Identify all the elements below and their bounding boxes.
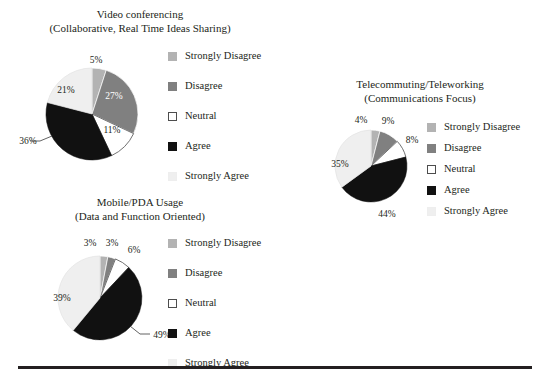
swatch-neutral-icon — [427, 165, 436, 174]
legend-item-strongly-disagree: Strongly Disagree — [168, 50, 261, 62]
legend-item-agree: Agree — [427, 184, 520, 196]
pie-mobile-pda-usage: 3% 3% 6% 49% 39% — [24, 232, 184, 362]
swatch-strongly-disagree-icon — [427, 123, 436, 132]
pie-value-strongly-disagree: 5% — [90, 55, 103, 65]
legend-item-strongly-disagree: Strongly Disagree — [427, 121, 520, 133]
pie-value-neutral: 6% — [128, 245, 141, 255]
legend-item-disagree: Disagree — [168, 80, 261, 92]
pie-value-strongly-disagree: 4% — [355, 115, 368, 125]
swatch-strongly-agree-icon — [168, 172, 177, 181]
swatch-strongly-disagree-icon — [168, 239, 177, 248]
pie-video-conferencing: 5% 27% 11% 36% 21% — [8, 48, 168, 178]
legend-telecommuting-teleworking: Strongly Disagree Disagree Neutral Agree… — [427, 121, 520, 217]
swatch-agree-icon — [427, 186, 436, 195]
legend-item-neutral: Neutral — [168, 110, 261, 122]
legend-label-strongly-disagree: Strongly Disagree — [444, 121, 520, 133]
legend-label-strongly-disagree: Strongly Disagree — [185, 50, 261, 62]
chart-title-line-2: (Communications Focus) — [330, 92, 510, 106]
legend-label-agree: Agree — [185, 327, 211, 339]
chart-title-telecommuting-teleworking: Telecommuting/Teleworking (Communication… — [330, 78, 510, 105]
legend-item-agree: Agree — [168, 327, 261, 339]
legend-label-strongly-agree: Strongly Agree — [185, 170, 249, 182]
legend-item-strongly-disagree: Strongly Disagree — [168, 237, 261, 249]
legend-label-strongly-disagree: Strongly Disagree — [185, 237, 261, 249]
chart-title-video-conferencing: Video conferencing (Collaborative, Real … — [10, 8, 270, 35]
legend-label-neutral: Neutral — [185, 297, 217, 309]
pie-value-strongly-agree: 21% — [57, 85, 75, 95]
legend-label-agree: Agree — [444, 184, 470, 196]
chart-title-mobile-pda-usage: Mobile/PDA Usage (Data and Function Orie… — [10, 196, 270, 223]
legend-item-disagree: Disagree — [427, 142, 520, 154]
chart-title-line-2: (Collaborative, Real Time Ideas Sharing) — [10, 22, 270, 36]
swatch-disagree-icon — [168, 82, 177, 91]
pie-value-disagree: 27% — [105, 91, 123, 101]
pie-value-neutral: 11% — [103, 125, 120, 135]
chart-title-line-2: (Data and Function Oriented) — [10, 210, 270, 224]
chart-panel-telecommuting-teleworking: Telecommuting/Teleworking (Communication… — [326, 78, 546, 228]
chart-panel-video-conferencing: Video conferencing (Collaborative, Real … — [0, 0, 300, 190]
legend-item-neutral: Neutral — [427, 163, 520, 175]
legend-label-disagree: Disagree — [185, 80, 222, 92]
chart-title-line-1: Mobile/PDA Usage — [10, 196, 270, 210]
legend-item-strongly-agree: Strongly Agree — [168, 170, 261, 182]
swatch-agree-icon — [168, 329, 177, 338]
swatch-agree-icon — [168, 142, 177, 151]
swatch-neutral-icon — [168, 112, 177, 121]
pie-value-agree: 36% — [19, 136, 37, 146]
legend-item-neutral: Neutral — [168, 297, 261, 309]
swatch-disagree-icon — [168, 269, 177, 278]
chart-title-line-1: Telecommuting/Teleworking — [330, 78, 510, 92]
pie-value-disagree: 9% — [382, 116, 395, 126]
legend-label-strongly-agree: Strongly Agree — [444, 205, 508, 217]
swatch-neutral-icon — [168, 299, 177, 308]
bottom-divider — [18, 366, 532, 369]
legend-label-agree: Agree — [185, 140, 211, 152]
legend-item-agree: Agree — [168, 140, 261, 152]
legend-label-disagree: Disagree — [185, 267, 222, 279]
chart-title-line-1: Video conferencing — [10, 8, 270, 22]
chart-panel-mobile-pda-usage: Mobile/PDA Usage (Data and Function Orie… — [0, 196, 300, 366]
pie-charts-figure: Video conferencing (Collaborative, Real … — [0, 0, 546, 380]
legend-label-neutral: Neutral — [444, 163, 476, 175]
pie-value-neutral: 8% — [406, 135, 419, 145]
pie-value-disagree: 3% — [106, 238, 119, 248]
swatch-disagree-icon — [427, 144, 436, 153]
legend-item-disagree: Disagree — [168, 267, 261, 279]
swatch-strongly-disagree-icon — [168, 52, 177, 61]
legend-item-strongly-agree: Strongly Agree — [427, 205, 520, 217]
pie-value-strongly-agree: 35% — [331, 159, 349, 169]
pie-value-strongly-disagree: 3% — [84, 238, 97, 248]
pie-value-agree: 44% — [378, 209, 396, 219]
swatch-strongly-agree-icon — [427, 207, 436, 216]
legend-mobile-pda-usage: Strongly Disagree Disagree Neutral Agree… — [168, 237, 261, 369]
legend-label-neutral: Neutral — [185, 110, 217, 122]
leader-line-agree — [130, 326, 150, 334]
legend-video-conferencing: Strongly Disagree Disagree Neutral Agree… — [168, 50, 261, 182]
legend-label-disagree: Disagree — [444, 142, 481, 154]
pie-value-strongly-agree: 39% — [53, 293, 71, 303]
